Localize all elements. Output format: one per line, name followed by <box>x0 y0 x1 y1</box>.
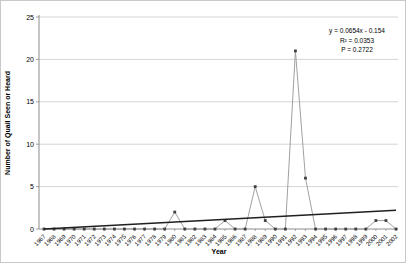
data-point-marker <box>193 228 196 231</box>
y-tick-label: 25 <box>26 14 34 21</box>
r-squared-label: R² = 0.0353 <box>340 37 375 44</box>
data-point-marker <box>153 228 156 231</box>
data-point-marker <box>93 228 96 231</box>
data-point-marker <box>244 228 247 231</box>
data-point-marker <box>123 228 126 231</box>
data-point-marker <box>173 211 176 214</box>
y-tick-labels: 0510152025 <box>26 14 34 233</box>
data-point-marker <box>183 228 186 231</box>
data-point-marker <box>103 228 106 231</box>
data-point-marker <box>143 228 146 231</box>
data-point-marker <box>374 219 377 222</box>
data-point-marker <box>324 228 327 231</box>
data-point-marker <box>364 228 367 231</box>
data-point-marker <box>385 219 388 222</box>
x-tick-labels: 1967196819691970197119721973197419751976… <box>33 233 399 247</box>
y-tick-label: 5 <box>30 183 34 190</box>
quail-count-trend-chart: 0510152025 19671968196919701971197219731… <box>0 0 406 263</box>
chart-canvas: 0510152025 19671968196919701971197219731… <box>1 1 405 262</box>
data-point-marker <box>284 228 287 231</box>
y-axis-title: Number of Quail Seen or Heard <box>4 71 12 175</box>
data-point-marker <box>264 219 267 222</box>
y-tick-label: 0 <box>30 226 34 233</box>
data-point-marker <box>334 228 337 231</box>
data-point-marker <box>395 228 398 231</box>
y-tick-label: 15 <box>26 98 34 105</box>
x-tick-label: 2002 <box>385 233 399 247</box>
data-point-marker <box>314 228 317 231</box>
series-line <box>44 51 396 229</box>
data-series <box>43 50 398 231</box>
data-point-marker <box>83 228 86 231</box>
data-point-marker <box>354 228 357 231</box>
data-point-marker <box>254 185 257 188</box>
data-point-marker <box>234 228 237 231</box>
data-point-marker <box>214 228 217 231</box>
data-point-marker <box>304 177 307 180</box>
y-tick-label: 20 <box>26 56 34 63</box>
x-axis-title: Year <box>212 248 227 255</box>
data-point-marker <box>113 228 116 231</box>
data-point-marker <box>204 228 207 231</box>
data-point-marker <box>163 228 166 231</box>
y-tick-label: 10 <box>26 141 34 148</box>
trend-line <box>44 210 396 229</box>
trend-line-group <box>44 210 396 229</box>
data-point-marker <box>133 228 136 231</box>
trendline-equation: y = 0.0654x - 0.154 <box>329 27 385 35</box>
p-value-label: P = 0.2722 <box>341 46 373 53</box>
data-point-marker <box>344 228 347 231</box>
data-point-marker <box>294 50 297 53</box>
data-point-marker <box>274 228 277 231</box>
